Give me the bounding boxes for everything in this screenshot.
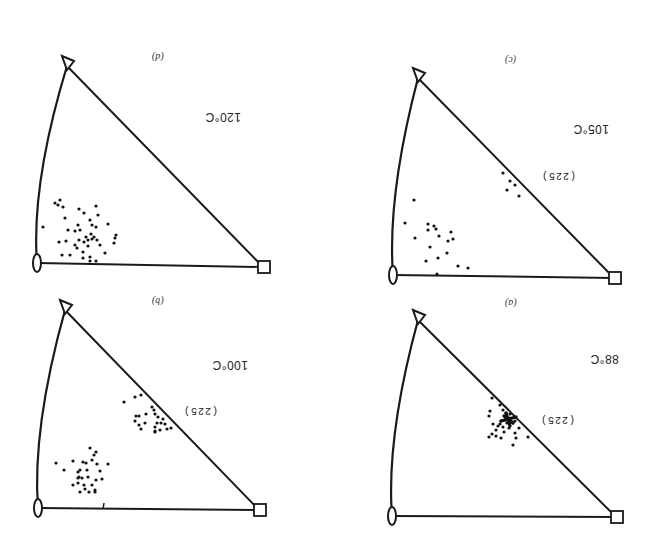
pole-figure-canvas xyxy=(0,0,653,537)
base-tick xyxy=(103,503,104,509)
hypotenuse-edge xyxy=(418,320,616,517)
lens-pole-icon xyxy=(33,254,41,272)
data-point xyxy=(494,428,497,431)
data-point xyxy=(75,246,78,249)
data-point xyxy=(517,426,520,429)
square-pole-icon xyxy=(258,261,270,273)
data-point xyxy=(494,434,497,437)
arc-edge xyxy=(37,310,65,508)
data-point xyxy=(413,236,416,239)
data-point xyxy=(161,417,164,420)
base-edge xyxy=(38,508,259,510)
data-point xyxy=(122,400,125,403)
data-point xyxy=(134,414,137,417)
data-point xyxy=(137,414,140,417)
data-point xyxy=(517,194,520,197)
data-point xyxy=(424,259,427,262)
data-point xyxy=(137,423,140,426)
triangle-pole-icon xyxy=(413,310,425,324)
arc-edge xyxy=(36,66,67,263)
data-point xyxy=(88,446,91,449)
data-point xyxy=(68,253,71,256)
data-point xyxy=(432,224,435,227)
pole-annotation-b: (225) xyxy=(183,405,218,416)
data-point xyxy=(71,459,74,462)
pole-annotation-a: (225) xyxy=(540,414,575,425)
data-point xyxy=(487,435,490,438)
data-point xyxy=(435,272,438,275)
data-point xyxy=(94,259,97,262)
data-point xyxy=(94,478,97,481)
hypotenuse-edge xyxy=(67,66,263,267)
data-point xyxy=(90,223,93,226)
data-point xyxy=(94,225,97,228)
data-point xyxy=(163,422,166,425)
arc-edge xyxy=(391,320,418,516)
data-point xyxy=(156,415,159,418)
data-point xyxy=(139,427,142,430)
data-point xyxy=(106,462,109,465)
data-point xyxy=(428,245,431,248)
temperature-label-d: 120°C xyxy=(205,110,241,124)
data-point xyxy=(95,462,98,465)
triangle-pole-icon xyxy=(62,56,74,70)
temperature-label-c: 105°C xyxy=(573,122,609,136)
data-point xyxy=(80,476,83,479)
data-point xyxy=(412,198,415,201)
data-point xyxy=(93,488,96,491)
data-point xyxy=(143,421,146,424)
data-point xyxy=(82,240,85,243)
data-point xyxy=(88,218,91,221)
temperature-label-b: 100°C xyxy=(212,358,248,372)
data-point xyxy=(446,239,449,242)
data-point xyxy=(56,203,59,206)
data-point xyxy=(153,425,156,428)
data-point xyxy=(81,256,84,259)
data-point xyxy=(169,426,172,429)
data-point xyxy=(501,425,504,428)
temperature-label-a: 88°C xyxy=(590,352,619,366)
data-point xyxy=(496,424,499,427)
data-point xyxy=(81,460,84,463)
data-point xyxy=(499,436,502,439)
data-point xyxy=(165,427,168,430)
data-point xyxy=(508,412,511,415)
data-point xyxy=(487,414,490,417)
data-point xyxy=(62,468,65,471)
data-point xyxy=(61,205,64,208)
triangle-panel-d xyxy=(33,56,270,273)
data-point xyxy=(113,236,116,239)
data-point xyxy=(139,393,142,396)
data-point xyxy=(77,207,80,210)
data-point xyxy=(436,256,439,259)
data-point xyxy=(498,403,501,406)
data-point xyxy=(77,475,80,478)
pole-annotation-c: (225) xyxy=(541,170,576,181)
data-point xyxy=(86,238,89,241)
data-point xyxy=(41,225,44,228)
data-point xyxy=(90,237,93,240)
data-point xyxy=(155,421,158,424)
data-point xyxy=(88,259,91,262)
data-point xyxy=(112,241,115,244)
data-point xyxy=(514,436,517,439)
data-point xyxy=(84,461,87,464)
lens-pole-icon xyxy=(34,499,42,517)
arc-edge xyxy=(392,78,418,275)
data-point xyxy=(501,171,504,174)
square-pole-icon xyxy=(609,272,621,284)
data-point xyxy=(159,421,162,424)
data-point xyxy=(488,409,491,412)
data-point xyxy=(153,412,156,415)
data-point xyxy=(90,483,93,486)
data-point xyxy=(449,230,452,233)
data-point xyxy=(73,243,76,246)
data-point xyxy=(63,216,66,219)
data-point xyxy=(153,430,156,433)
data-point xyxy=(490,432,493,435)
data-point xyxy=(98,243,101,246)
square-pole-icon xyxy=(254,504,266,516)
base-edge xyxy=(393,275,614,278)
data-point xyxy=(437,234,440,237)
data-point xyxy=(57,240,60,243)
